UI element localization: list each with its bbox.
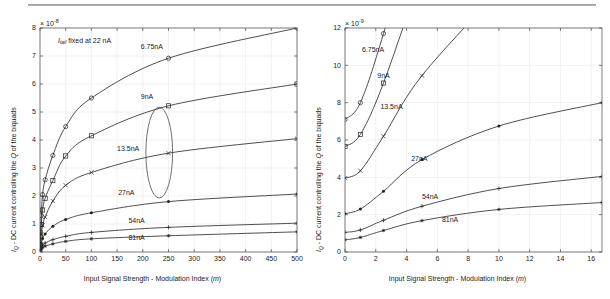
x-tick-label: 6 <box>435 255 439 262</box>
x-tick-label: 16 <box>587 255 595 262</box>
data-marker <box>90 237 93 240</box>
series-label-9nA: 9nA <box>377 72 390 79</box>
gridlines <box>40 28 297 252</box>
data-marker <box>51 199 55 203</box>
x-tick-label: 300 <box>188 255 200 262</box>
data-marker <box>89 230 93 234</box>
data-marker <box>358 169 362 173</box>
data-marker <box>90 211 93 214</box>
series-label-54nA: 54nA <box>422 193 439 200</box>
series-label-6-75nA: 6.75nA <box>362 46 385 53</box>
plot-canvas-left: 6.75nA9nA13.5nA27nA54nA81nA0501001502002… <box>0 0 305 299</box>
y-tick-label: 3 <box>32 164 36 171</box>
y-axis-exponent-left: × 10-8 <box>40 18 59 27</box>
series-label-81nA: 81nA <box>128 234 145 241</box>
y-axis-label-left: IQ - DC current controlling the Q of the… <box>10 107 19 252</box>
series-81nA <box>343 201 603 242</box>
series-group <box>343 0 604 242</box>
y-tick-label: 4 <box>32 136 36 143</box>
data-marker <box>381 134 385 138</box>
x-tick-label: 200 <box>137 255 149 262</box>
data-marker <box>51 238 55 242</box>
x-tick-label: 14 <box>557 255 565 262</box>
x-tick-label: 450 <box>265 255 277 262</box>
data-marker <box>359 236 362 239</box>
data-marker <box>381 218 385 222</box>
data-marker <box>64 234 68 238</box>
x-tick-label: 12 <box>526 255 534 262</box>
data-marker <box>420 204 424 208</box>
series-27nA <box>344 101 604 215</box>
data-marker <box>497 186 501 190</box>
x-tick-label: 10 <box>495 255 503 262</box>
x-tick-label: 4 <box>405 255 409 262</box>
y-tick-label: 8 <box>32 24 36 31</box>
data-marker <box>64 218 67 221</box>
series-label-13-5nA: 13.5nA <box>117 145 140 152</box>
y-tick-label: 0 <box>337 248 341 255</box>
data-marker <box>358 228 362 232</box>
y-tick-label: 2 <box>32 192 36 199</box>
data-marker <box>167 234 170 237</box>
y-tick-label: 0 <box>32 248 36 255</box>
data-marker <box>41 237 44 240</box>
y-tick-label: 2 <box>337 211 341 218</box>
y-tick-label: 12 <box>333 24 341 31</box>
y-tick-label: 4 <box>337 174 341 181</box>
y-tick-label: 6 <box>337 136 341 143</box>
data-marker <box>167 200 170 203</box>
plot-annotation: Itail fixed at 22 nA <box>58 37 111 45</box>
data-marker <box>359 208 362 211</box>
x-tick-label: 50 <box>62 255 70 262</box>
x-tick-label: 0 <box>343 255 347 262</box>
data-marker <box>43 244 46 247</box>
x-axis-label-right: Input Signal Strength - Modulation Index… <box>305 275 610 282</box>
x-tick-label: 400 <box>240 255 252 262</box>
chart-panel-left: 6.75nA9nA13.5nA27nA54nA81nA0501001502002… <box>0 0 305 299</box>
series-label-54nA: 54nA <box>128 217 145 224</box>
series-label-27nA: 27nA <box>118 189 135 196</box>
x-tick-label: 250 <box>163 255 175 262</box>
data-marker <box>64 240 67 243</box>
data-marker <box>51 242 54 245</box>
series-label-13-5nA: 13.5nA <box>380 103 403 110</box>
y-tick-label: 5 <box>32 108 36 115</box>
x-tick-label: 2 <box>374 255 378 262</box>
y-tick-label: 10 <box>333 62 341 69</box>
figure-root: 6.75nA9nA13.5nA27nA54nA81nA0501001502002… <box>0 0 610 299</box>
series-label-6-75nA: 6.75nA <box>141 43 164 50</box>
axis-ticks: 0246810121416024681012 <box>333 24 602 262</box>
series-labels: 6.75nA9nA13.5nA27nA54nA81nA <box>117 43 163 241</box>
data-marker <box>44 233 47 236</box>
y-tick-label: 6 <box>32 80 36 87</box>
y-tick-label: 1 <box>32 220 36 227</box>
series-label-81nA: 81nA <box>442 216 459 223</box>
x-tick-label: 150 <box>111 255 123 262</box>
data-marker <box>382 229 385 232</box>
x-tick-label: 100 <box>86 255 98 262</box>
data-marker <box>497 208 500 211</box>
y-tick-label: 8 <box>337 99 341 106</box>
data-marker <box>51 225 54 228</box>
data-marker <box>43 215 47 219</box>
svg-text:Itail fixed at 22 nA: Itail fixed at 22 nA <box>58 37 111 45</box>
x-axis-label-left: Input Signal Strength - Modulation Index… <box>0 275 305 282</box>
x-tick-label: 8 <box>466 255 470 262</box>
data-marker <box>497 125 500 128</box>
y-axis-label-right: IQ - DC current controlling the Q of the… <box>315 107 324 252</box>
x-tick-label: 350 <box>214 255 226 262</box>
plot-canvas-right: 6.75nA9nA13.5nA27nA54nA81nA0246810121416… <box>305 0 610 299</box>
series-13-5nA <box>343 0 499 180</box>
chart-panel-right: 6.75nA9nA13.5nA27nA54nA81nA0246810121416… <box>305 0 610 299</box>
data-marker <box>382 190 385 193</box>
data-marker <box>166 225 170 229</box>
data-marker <box>420 74 424 78</box>
x-tick-label: 500 <box>291 255 303 262</box>
series-label-27nA: 27nA <box>411 155 428 162</box>
y-tick-label: 7 <box>32 52 36 59</box>
y-axis-exponent-right: × 10-9 <box>345 18 364 27</box>
data-marker <box>420 219 423 222</box>
x-tick-label: 0 <box>38 255 42 262</box>
series-label-9nA: 9nA <box>141 93 154 100</box>
